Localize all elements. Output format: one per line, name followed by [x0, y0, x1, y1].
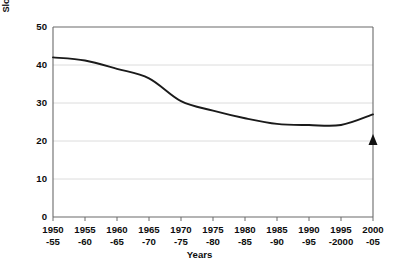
plot-frame — [53, 27, 373, 217]
plot-area — [0, 0, 399, 273]
line-chart: Slope index of inequality in life expect… — [0, 0, 399, 273]
right-axis-triangle-marker — [369, 134, 378, 145]
x-axis-ticks — [53, 217, 373, 221]
grid-lines — [53, 65, 373, 179]
x-axis-title: Years — [0, 249, 399, 260]
data-series-line — [53, 57, 373, 125]
